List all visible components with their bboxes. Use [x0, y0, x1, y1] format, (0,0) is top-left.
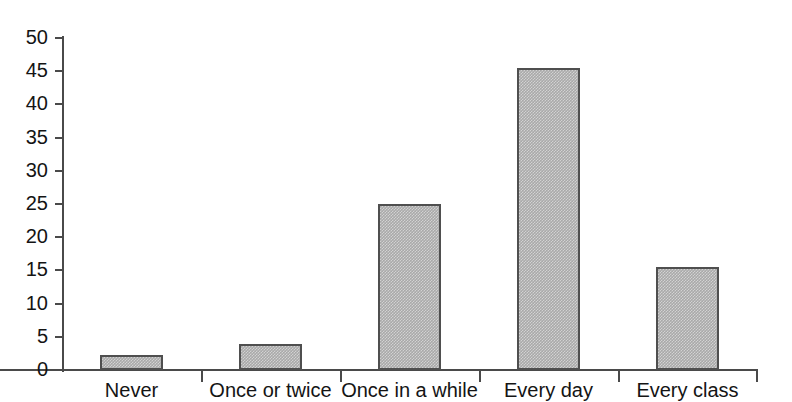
y-axis-tick [55, 103, 63, 105]
y-axis-tick-label: 40 [0, 93, 48, 113]
y-axis-tick [55, 137, 63, 139]
chart-title-cropped [0, 0, 792, 14]
x-axis-category-label: Every day [479, 379, 618, 401]
x-axis-category-label: Every class [618, 379, 757, 401]
bar-chart: 50454035302520151050 NeverOnce or twiceO… [0, 0, 792, 402]
y-axis-tick [55, 170, 63, 172]
y-axis-tick [55, 236, 63, 238]
bar [239, 344, 302, 370]
bar [517, 68, 580, 370]
x-axis-category-label: Once in a while [340, 379, 479, 401]
y-axis-tick [55, 269, 63, 271]
bar [378, 204, 441, 370]
y-axis-tick-label: 30 [0, 160, 48, 180]
y-axis-tick [55, 37, 63, 39]
y-axis-tick-label: 0 [0, 359, 48, 379]
y-axis-tick-label: 45 [0, 60, 48, 80]
y-axis-tick-label: 5 [0, 326, 48, 346]
x-axis-category-label: Once or twice [201, 379, 340, 401]
y-axis-tick [55, 336, 63, 338]
y-axis-tick [55, 303, 63, 305]
y-axis-tick-label: 10 [0, 293, 48, 313]
x-axis-category-label: Never [62, 379, 201, 401]
y-axis-tick-label: 50 [0, 27, 48, 47]
y-axis-tick [55, 369, 63, 371]
y-axis-tick-label: 20 [0, 226, 48, 246]
y-axis-tick [55, 203, 63, 205]
y-axis-tick-label: 15 [0, 259, 48, 279]
y-axis-tick [55, 70, 63, 72]
bar [656, 267, 719, 370]
y-axis-tick-label: 25 [0, 193, 48, 213]
bar [100, 355, 163, 370]
y-axis-tick-label: 35 [0, 127, 48, 147]
